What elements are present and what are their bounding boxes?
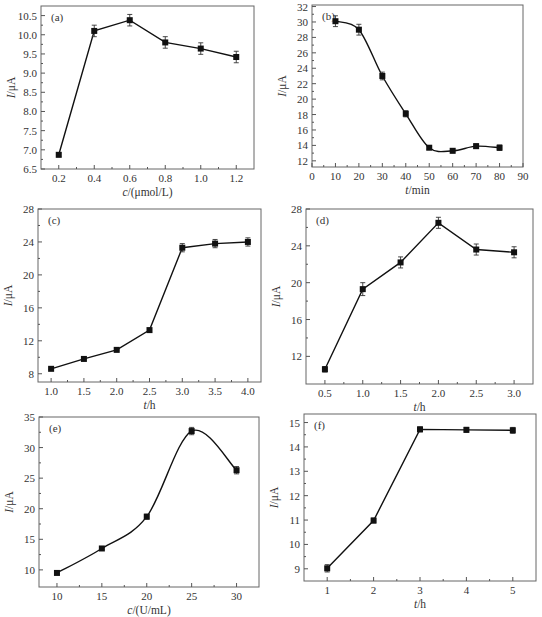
data-line (325, 223, 514, 369)
y-tick-label: 32 (297, 1, 308, 13)
data-line (57, 430, 237, 573)
data-point-marker (147, 327, 153, 333)
data-line (59, 20, 237, 155)
data-point-marker (245, 239, 251, 245)
x-tick-label: 0.6 (123, 172, 137, 184)
x-tick-label: 10 (330, 170, 342, 182)
x-tick-label: 1.0 (356, 387, 370, 399)
y-tick-label: 35 (24, 411, 36, 423)
data-point-marker (403, 111, 409, 117)
data-point-marker (91, 28, 97, 34)
x-tick-label: 3 (417, 584, 423, 596)
x-axis-label: t/min (405, 184, 430, 196)
y-axis-label: I/μA (3, 491, 16, 514)
x-tick-label: 4.0 (241, 385, 255, 397)
plot-frame (38, 209, 261, 382)
x-tick-label: 90 (518, 170, 530, 182)
plot-frame (41, 6, 254, 169)
x-tick-label: 0.4 (87, 172, 101, 184)
data-point-marker (510, 427, 516, 433)
plot-frame (312, 5, 523, 167)
data-point-marker (212, 241, 218, 247)
y-tick-label: 7.0 (23, 144, 37, 156)
y-tick-label: 16 (297, 124, 309, 136)
x-tick-label: 10 (51, 590, 63, 602)
y-tick-label: 6.5 (23, 163, 37, 175)
x-tick-label: 0.5 (318, 387, 332, 399)
y-tick-label: 12 (23, 335, 34, 347)
y-axis-label: I/μA (276, 75, 289, 98)
data-point-marker (234, 467, 240, 473)
y-tick-label: 11 (289, 514, 300, 526)
x-axis-label: c/(U/mL) (127, 604, 171, 617)
x-axis-label: c/(μmol/L) (122, 186, 172, 199)
x-tick-label: 5 (510, 584, 516, 596)
y-tick-label: 28 (297, 31, 309, 43)
data-line (51, 242, 248, 369)
data-point-marker (48, 366, 54, 372)
data-point-marker (56, 152, 62, 158)
data-point-marker (371, 518, 377, 524)
x-tick-label: 1.0 (44, 385, 58, 397)
y-tick-label: 24 (23, 236, 35, 248)
x-tick-label: 3.5 (208, 385, 222, 397)
panel-d: 0.51.01.52.02.53.01216202428t/hI/μA(d) (270, 203, 533, 413)
panel-f: 123459101112131415t/hI/μA(f) (268, 414, 536, 610)
x-tick-label: 30 (377, 170, 389, 182)
data-point-marker (473, 247, 479, 253)
x-tick-label: 0.8 (158, 172, 172, 184)
y-tick-label: 18 (297, 109, 309, 121)
x-tick-label: 15 (96, 590, 108, 602)
y-tick-label: 14 (289, 441, 301, 453)
y-tick-label: 10 (24, 564, 36, 576)
x-tick-label: 20 (353, 170, 365, 182)
data-point-marker (398, 259, 404, 265)
y-tick-label: 16 (23, 302, 35, 314)
data-line (335, 21, 499, 151)
figure: 0.20.40.60.81.01.26.57.07.58.08.59.09.51… (0, 0, 542, 617)
data-point-marker (426, 145, 432, 151)
y-tick-label: 30 (24, 442, 36, 454)
data-point-marker (179, 245, 185, 251)
y-axis-label: I/μA (270, 285, 283, 308)
y-axis-label: I/μA (268, 486, 281, 509)
data-point-marker (189, 428, 195, 434)
x-tick-label: 60 (447, 170, 459, 182)
x-tick-label: 50 (424, 170, 436, 182)
panel-label: (f) (314, 419, 325, 432)
y-tick-label: 20 (291, 277, 303, 289)
y-tick-label: 8.0 (23, 105, 37, 117)
data-point-marker (497, 145, 503, 151)
data-point-marker (81, 356, 87, 362)
y-tick-label: 10 (289, 538, 301, 550)
data-point-marker (360, 286, 366, 292)
y-tick-label: 28 (291, 203, 303, 215)
data-line (327, 429, 513, 568)
data-point-marker (162, 39, 168, 45)
x-tick-label: 25 (186, 590, 198, 602)
x-tick-label: 2.0 (432, 387, 446, 399)
y-tick-label: 30 (297, 16, 309, 28)
y-tick-label: 24 (291, 240, 303, 252)
data-point-marker (450, 148, 456, 154)
y-axis-label: I/μA (5, 76, 18, 99)
x-axis-label: t/h (143, 399, 155, 411)
x-tick-label: 80 (494, 170, 506, 182)
y-tick-label: 9.0 (23, 67, 37, 79)
x-tick-label: 2.0 (110, 385, 124, 397)
x-tick-label: 0.2 (52, 172, 66, 184)
y-tick-label: 16 (291, 314, 303, 326)
data-point-marker (332, 18, 338, 24)
x-tick-label: 40 (400, 170, 412, 182)
y-tick-label: 10.5 (18, 10, 38, 22)
x-tick-label: 2 (371, 584, 377, 596)
x-axis-label: t/h (414, 598, 426, 610)
data-point-marker (511, 249, 517, 255)
y-tick-label: 20 (23, 269, 35, 281)
data-point-marker (435, 220, 441, 226)
y-tick-label: 8.5 (23, 86, 37, 98)
panel-e: 1015202530101520253035c/(U/mL)I/μA(e) (3, 411, 259, 617)
y-tick-label: 7.5 (23, 125, 37, 137)
x-tick-label: 3.0 (507, 387, 521, 399)
x-tick-label: 20 (141, 590, 153, 602)
